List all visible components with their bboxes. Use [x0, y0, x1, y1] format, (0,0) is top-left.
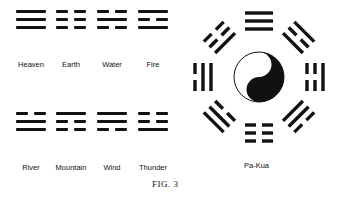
pakua-trigram-top-left [203, 21, 237, 55]
pakua-trigram-left [193, 63, 212, 91]
pakua-trigram-top-right [282, 21, 316, 55]
pakua-trigram-bottom-left [203, 100, 237, 134]
pakua-trigram-right [305, 63, 324, 91]
yin-yang-icon [234, 52, 284, 102]
pakua-trigram-top [245, 11, 273, 30]
pakua-diagram [0, 0, 339, 197]
pakua-trigram-bottom [245, 123, 273, 142]
pakua-label: Pa-Kua [244, 161, 269, 170]
pakua-trigram-bottom-right [282, 100, 316, 134]
